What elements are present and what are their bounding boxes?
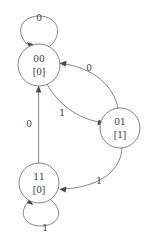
- transition-label-11-to-00: 0: [26, 119, 32, 129]
- transition-00-to-01: [47, 84, 105, 126]
- transition-11-to-00: [36, 86, 42, 164]
- transition-01-to-11: [59, 148, 122, 193]
- state-node-01-circle: [100, 108, 140, 148]
- state-node-00-output-label: [0]: [33, 67, 46, 77]
- state-node-11[interactable]: 11 [0]: [19, 163, 59, 203]
- state-node-11-output-label: [0]: [33, 185, 46, 195]
- state-node-00-circle: [18, 44, 60, 86]
- fsm-canvas: 00 [0] 01 [1] 11 [0] 0 1 0 1 0 1: [0, 0, 154, 238]
- transition-label-11-to-11: 1: [42, 223, 48, 233]
- state-node-11-circle: [19, 163, 59, 203]
- transition-00-to-01-path: [47, 84, 99, 122]
- transition-label-01-to-00: 0: [86, 63, 92, 73]
- transition-01-to-11-arrowhead: [59, 187, 66, 193]
- state-node-00[interactable]: 00 [0]: [18, 44, 60, 86]
- state-node-11-state-label: 11: [33, 172, 44, 182]
- transition-label-00-to-00: 0: [36, 13, 42, 23]
- transition-label-00-to-01: 1: [59, 108, 65, 118]
- transition-01-to-11-path: [65, 148, 122, 189]
- state-node-00-state-label: 00: [33, 54, 45, 64]
- state-node-01-output-label: [1]: [114, 130, 127, 140]
- transition-11-to-00-arrowhead: [36, 86, 42, 93]
- transition-label-01-to-11: 1: [96, 176, 102, 186]
- transition-01-to-00-arrowhead: [59, 61, 66, 67]
- fsm-diagram: 00 [0] 01 [1] 11 [0] 0 1 0 1 0 1: [0, 0, 154, 238]
- state-node-01-state-label: 01: [114, 117, 125, 127]
- state-node-01[interactable]: 01 [1]: [100, 108, 140, 148]
